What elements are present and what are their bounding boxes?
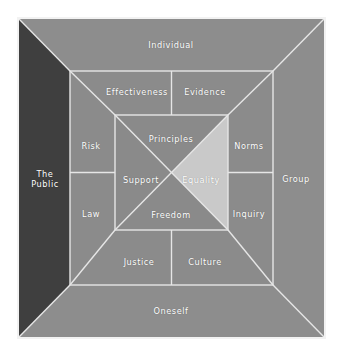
middle-segment-inquiry-label: Inquiry [233, 209, 265, 219]
middle-segment-norms-label: Norms [234, 141, 263, 151]
inner-segment-equality-label: Equality [182, 175, 220, 185]
inner-segment-support-label: Support [123, 175, 159, 185]
outer-segment-the-public-label: The Public [22, 169, 68, 190]
outer-segment-individual-label: Individual [148, 40, 193, 50]
middle-segment-evidence-label: Evidence [184, 87, 226, 97]
middle-segment-effectiveness-label: Effectiveness [106, 87, 168, 97]
diagram-canvas: Individual Group Oneself The Public Effe… [0, 0, 343, 356]
inner-segment-freedom-label: Freedom [151, 210, 190, 220]
outer-segment-group-label: Group [282, 174, 310, 184]
inner-segment-principles-label: Principles [149, 134, 194, 144]
middle-segment-culture-label: Culture [188, 257, 222, 267]
outer-segment-oneself-label: Oneself [154, 306, 189, 316]
middle-segment-risk-label: Risk [81, 141, 100, 151]
middle-segment-law-label: Law [82, 209, 100, 219]
diagram-frame: Individual Group Oneself The Public Effe… [17, 17, 326, 339]
middle-segment-justice-label: Justice [124, 257, 155, 267]
